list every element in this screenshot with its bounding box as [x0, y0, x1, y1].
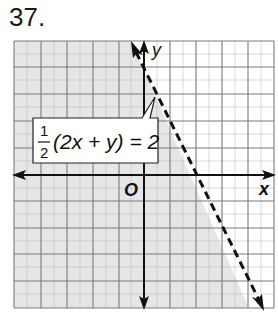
equation-body: (2x + y) = 2 — [53, 130, 160, 153]
equation-fraction-denominator: 2 — [40, 144, 48, 161]
equation-fraction-numerator: 1 — [40, 122, 48, 139]
y-axis-label: y — [150, 40, 162, 60]
x-axis-label: x — [258, 179, 270, 199]
coordinate-graph: 1 2 (2x + y) = 2 y x O — [0, 0, 278, 320]
origin-label: O — [124, 180, 138, 200]
